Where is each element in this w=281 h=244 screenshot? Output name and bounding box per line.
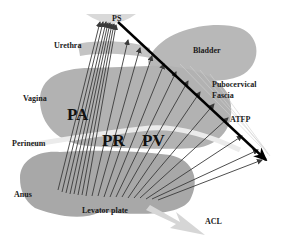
label-levator-plate: Levator plate — [82, 207, 128, 215]
pubic-symphysis-shape — [86, 14, 136, 23]
label-vagina: Vagina — [23, 95, 47, 103]
label-pa: PA — [67, 106, 88, 123]
label-pv: PV — [142, 132, 165, 149]
label-acl: ACL — [205, 218, 222, 226]
label-atfp: ATFP — [230, 116, 250, 124]
label-fascia: Fascia — [212, 92, 234, 100]
label-bladder: Bladder — [193, 47, 221, 55]
label-urethra: Urethra — [54, 42, 81, 50]
pelvic-floor-diagram: PS Urethra Bladder Vagina Pubocervical F… — [0, 0, 281, 244]
label-pr: PR — [102, 132, 125, 149]
label-pubocervical: Pubocervical — [212, 81, 256, 89]
label-perineum: Perineum — [12, 140, 45, 148]
label-ps: PS — [112, 15, 121, 23]
label-anus: Anus — [14, 191, 32, 199]
